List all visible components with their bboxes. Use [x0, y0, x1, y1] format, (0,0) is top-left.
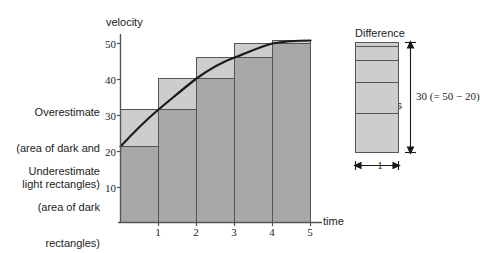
- dark-rectangle-1: [121, 147, 159, 223]
- dark-rectangle-3: [197, 79, 235, 223]
- stack-segment-3: [356, 61, 399, 83]
- stack-segment-5: [356, 43, 399, 47]
- difference-height-label: 30 (= 50 − 20): [416, 90, 480, 102]
- stack-segments: [356, 43, 399, 153]
- dark-rectangle-2: [159, 110, 197, 223]
- dark-rectangle-5: [273, 44, 311, 223]
- stack-segment-4: [356, 47, 399, 61]
- height-measure-arrow: [405, 42, 416, 154]
- difference-width-label: 1: [375, 159, 385, 171]
- stack-segment-2: [356, 83, 399, 114]
- stack-segment-1: [356, 114, 399, 153]
- dark-rectangle-4: [235, 58, 273, 223]
